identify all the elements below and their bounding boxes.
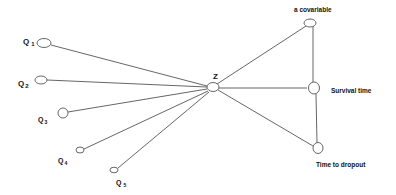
- edge-q4-z: [84, 91, 208, 149]
- label-dropout: Time to dropout: [316, 161, 366, 169]
- nodes: [35, 19, 323, 173]
- edge-z-covariable: [217, 26, 306, 84]
- node-q1: [37, 39, 51, 48]
- path-diagram: Q1 Q2 Q3 Q4 Q5 Z a covariable Survival t…: [0, 0, 396, 195]
- edge-q2-z: [47, 80, 207, 87]
- node-q3: [58, 108, 68, 118]
- node-dropout: [313, 143, 323, 154]
- edge-q1-z: [51, 45, 207, 86]
- label-q3: Q3: [38, 116, 47, 125]
- edges: [47, 26, 317, 168]
- node-covariable: [304, 19, 316, 27]
- node-survival: [309, 82, 320, 94]
- label-q4: Q4: [58, 157, 67, 166]
- node-q4: [76, 147, 84, 153]
- edge-q3-z: [68, 89, 207, 112]
- edge-z-dropout: [218, 90, 313, 146]
- label-q1: Q1: [23, 37, 35, 47]
- label-q5: Q5: [116, 179, 126, 188]
- label-q2: Q2: [18, 79, 29, 89]
- label-survival: Survival time: [331, 87, 372, 94]
- edge-survival-dropout: [316, 94, 317, 143]
- label-covariable: a covariable: [294, 6, 332, 13]
- edge-q5-z: [118, 92, 209, 168]
- diagram-svg: Q1 Q2 Q3 Q4 Q5 Z a covariable Survival t…: [0, 0, 396, 195]
- node-q2: [35, 76, 47, 84]
- node-z: [207, 83, 219, 92]
- label-z: Z: [213, 72, 218, 81]
- node-q5: [110, 167, 118, 173]
